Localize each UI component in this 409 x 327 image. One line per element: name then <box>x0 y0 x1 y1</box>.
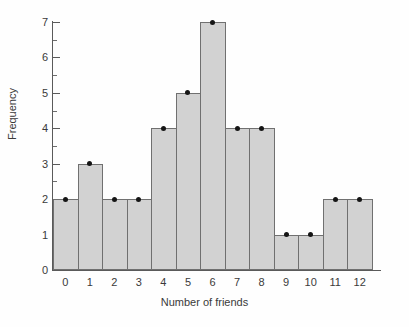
plot-area <box>53 22 372 270</box>
data-point-marker <box>259 126 264 131</box>
data-point-marker <box>112 197 117 202</box>
x-axis-tick-label: 1 <box>78 277 103 288</box>
histogram-bar <box>225 128 251 270</box>
x-axis-tick-label: 4 <box>151 277 176 288</box>
data-point-marker <box>235 126 240 131</box>
x-axis-tick-label: 7 <box>225 277 250 288</box>
histogram-bar <box>78 164 104 270</box>
y-axis-title: Frequency <box>6 64 18 164</box>
y-axis-tick-label: 7 <box>30 17 48 28</box>
y-axis-tick-label: 3 <box>30 159 48 170</box>
x-axis-tick-label: 8 <box>249 277 274 288</box>
histogram-bar <box>53 199 79 270</box>
x-axis-tick-label: 5 <box>176 277 201 288</box>
histogram-bar <box>347 199 373 270</box>
y-axis-tick-label: 5 <box>30 88 48 99</box>
histogram-bar <box>249 128 275 270</box>
histogram-bar <box>298 235 324 270</box>
y-axis-tick-label: 4 <box>30 123 48 134</box>
data-point-marker <box>284 232 289 237</box>
histogram-bar <box>127 199 153 270</box>
data-point-marker <box>161 126 166 131</box>
data-point-marker <box>333 197 338 202</box>
y-axis-tick-label: 2 <box>30 194 48 205</box>
histogram-bar <box>151 128 177 270</box>
y-axis-tick <box>53 270 60 271</box>
x-axis-tick-label: 11 <box>323 277 348 288</box>
x-axis-tick-label: 10 <box>298 277 323 288</box>
x-axis-tick-label: 3 <box>127 277 152 288</box>
histogram-bar <box>102 199 128 270</box>
data-point-marker <box>210 20 215 25</box>
histogram-bar <box>323 199 349 270</box>
data-point-marker <box>63 197 68 202</box>
x-axis-tick-label: 2 <box>102 277 127 288</box>
x-axis-line <box>52 270 381 271</box>
y-axis-tick-label: 6 <box>30 52 48 63</box>
y-axis-tick-label: 0 <box>30 265 48 276</box>
histogram-figure: 01234567 0123456789101112 Number of frie… <box>0 0 409 327</box>
histogram-bar <box>200 22 226 270</box>
histogram-bar <box>176 93 202 270</box>
x-axis-tick-label: 0 <box>53 277 78 288</box>
histogram-bar <box>274 235 300 270</box>
x-axis-tick-label: 6 <box>200 277 225 288</box>
x-axis-tick-label: 9 <box>274 277 299 288</box>
x-axis-title: Number of friends <box>0 296 409 308</box>
y-axis-tick-label: 1 <box>30 230 48 241</box>
data-point-marker <box>357 197 362 202</box>
x-axis-tick-label: 12 <box>347 277 372 288</box>
